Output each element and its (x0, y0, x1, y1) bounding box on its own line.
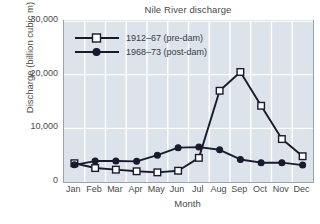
data-point (279, 160, 285, 166)
series-pre-dam (71, 69, 306, 176)
data-point (279, 136, 286, 143)
chart-legend: 1912–67 (pre-dam) 1968–73 (post-dam) (74, 31, 234, 59)
data-point (113, 158, 119, 164)
x-tick-label-dec: Dec (285, 184, 319, 194)
chart-title: Nile River discharge (63, 4, 313, 15)
legend-swatch-filled-circle-icon (74, 45, 120, 59)
chart-figure: Nile River discharge Discharge (billion … (0, 0, 320, 224)
data-point (175, 167, 182, 174)
y-tick-label: 0 (0, 175, 58, 185)
x-axis-label: Month (63, 198, 312, 209)
data-point (154, 169, 161, 176)
data-point (71, 162, 77, 168)
data-point (237, 157, 243, 163)
data-point (300, 162, 306, 168)
data-point (154, 152, 160, 158)
y-tick-label: 20,000 (0, 68, 58, 78)
data-point (258, 102, 265, 109)
data-point (216, 87, 223, 94)
data-point (196, 144, 202, 150)
legend-label-pre-dam: 1912–67 (pre-dam) (126, 31, 203, 45)
data-point (237, 69, 244, 76)
data-point (196, 155, 203, 162)
y-tick-label: 30,000 (0, 14, 58, 24)
y-tick-label: 10,000 (0, 121, 58, 131)
legend-item-post-dam: 1968–73 (post-dam) (74, 45, 234, 59)
data-point (92, 165, 99, 172)
data-point (258, 160, 264, 166)
legend-swatch-open-square-icon (74, 31, 120, 45)
data-point (113, 166, 120, 173)
legend-item-pre-dam: 1912–67 (pre-dam) (74, 31, 234, 45)
data-point (175, 145, 181, 151)
data-point (299, 153, 306, 160)
legend-label-post-dam: 1968–73 (post-dam) (126, 45, 207, 59)
data-point (133, 168, 140, 175)
data-point (92, 158, 98, 164)
data-point (217, 147, 223, 153)
x-axis-tick-labels: JanFebMarAprMayJunJulAugSepOctNovDec (63, 184, 312, 197)
data-point (134, 158, 140, 164)
